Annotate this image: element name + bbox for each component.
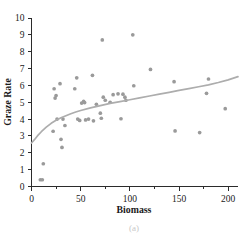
x-tick-label: 50 (76, 194, 86, 204)
data-point (63, 124, 67, 128)
y-tick-label: 6 (20, 81, 25, 91)
data-point (132, 84, 136, 88)
y-tick-label: 7 (20, 64, 25, 74)
x-tick-label: 100 (123, 194, 138, 204)
data-point (99, 116, 103, 120)
data-point (58, 82, 62, 86)
data-point (205, 91, 209, 95)
data-point (121, 92, 125, 96)
data-point (100, 38, 104, 42)
y-tick-label: 3 (20, 131, 25, 141)
x-tick-label: 200 (221, 194, 236, 204)
figure-caption: (a) (129, 223, 139, 233)
data-point (52, 87, 56, 91)
y-tick-label: 5 (20, 98, 25, 108)
data-point (73, 87, 77, 91)
data-point (41, 162, 45, 166)
data-point (87, 117, 91, 121)
data-point (172, 80, 176, 84)
chart-figure: 012345678910 050100150200 Biomass Graze … (0, 0, 245, 235)
y-axis-title: Graze Rate (2, 78, 13, 126)
data-point (131, 33, 135, 37)
data-point (40, 178, 44, 182)
data-point (78, 119, 82, 123)
data-point (92, 119, 96, 123)
y-tick-label: 1 (20, 165, 25, 175)
data-point (207, 77, 211, 81)
data-point (149, 68, 153, 72)
data-point (111, 93, 115, 97)
data-point (198, 131, 202, 135)
data-point (54, 94, 58, 98)
y-axis-ticks (28, 18, 32, 187)
data-point (75, 76, 79, 80)
data-point (103, 98, 107, 102)
y-tick-label: 9 (20, 30, 25, 40)
x-axis-ticks (32, 187, 229, 191)
data-point (119, 117, 123, 121)
data-point (51, 129, 55, 133)
y-tick-label: 2 (20, 148, 25, 158)
scatter-plot: 012345678910 050100150200 Biomass Graze … (0, 0, 245, 235)
data-point (60, 146, 64, 150)
x-axis-title: Biomass (117, 204, 152, 215)
y-tick-label: 8 (20, 47, 25, 57)
data-point (101, 95, 105, 99)
y-tick-label: 4 (20, 115, 25, 125)
data-point (83, 101, 87, 105)
data-points-group (39, 33, 228, 182)
x-tick-label: 0 (29, 194, 34, 204)
data-point (116, 92, 120, 96)
y-tick-label: 0 (20, 182, 25, 192)
x-axis-tick-labels: 050100150200 (29, 194, 235, 204)
y-axis: 012345678910 (15, 13, 32, 192)
x-tick-label: 150 (172, 194, 187, 204)
y-tick-label: 10 (15, 13, 25, 23)
data-point (98, 111, 102, 115)
y-axis-tick-labels: 012345678910 (15, 13, 25, 192)
x-axis: 050100150200 (29, 187, 238, 204)
data-point (173, 129, 177, 133)
data-point (223, 107, 227, 111)
data-point (91, 73, 95, 77)
data-point (59, 137, 63, 141)
